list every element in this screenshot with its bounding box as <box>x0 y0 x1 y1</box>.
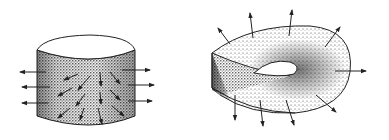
mobius-strip-figure <box>190 0 389 140</box>
cylinder-figure <box>0 0 180 140</box>
mobius-strip-illustration <box>190 0 389 140</box>
cylinder-illustration <box>0 0 180 140</box>
